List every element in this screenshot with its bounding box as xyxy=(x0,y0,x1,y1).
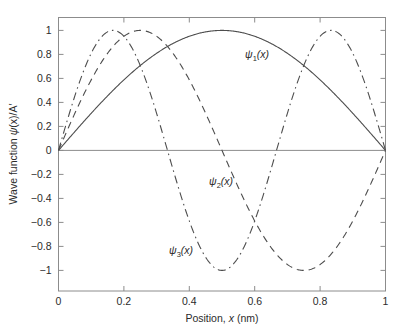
x-tick-label: 0.8 xyxy=(313,295,328,307)
y-tick-label: 0 xyxy=(46,144,52,156)
wavefunction-plot: 00.20.40.60.81 10.80.60.40.20−0.2−0.4−0.… xyxy=(0,0,416,336)
y-tick-label: 0.4 xyxy=(37,96,52,108)
y-tick-label: 0.6 xyxy=(37,72,52,84)
x-tick-label: 0 xyxy=(56,295,62,307)
y-tick-label: −0.8 xyxy=(31,240,52,252)
x-tick-label: 0.6 xyxy=(247,295,262,307)
x-tick-label: 0.4 xyxy=(182,295,197,307)
y-tick-label: −0.2 xyxy=(31,168,52,180)
y-axis-title: Wave functionψ(x)/A′ xyxy=(7,104,19,205)
y-tick-label: 0.8 xyxy=(37,48,52,60)
y-tick-label: −0.4 xyxy=(31,192,52,204)
chart-figure: 00.20.40.60.81 10.80.60.40.20−0.2−0.4−0.… xyxy=(0,0,416,336)
x-axis-title: Position,x(nm) xyxy=(185,312,258,324)
x-tick-label: 1 xyxy=(383,295,389,307)
plot-background xyxy=(0,0,416,336)
y-tick-label: 1 xyxy=(46,24,52,36)
y-tick-label: −0.6 xyxy=(31,216,52,228)
y-tick-label: −1 xyxy=(40,264,52,276)
y-tick-label: 0.2 xyxy=(37,120,52,132)
x-tick-label: 0.2 xyxy=(117,295,132,307)
